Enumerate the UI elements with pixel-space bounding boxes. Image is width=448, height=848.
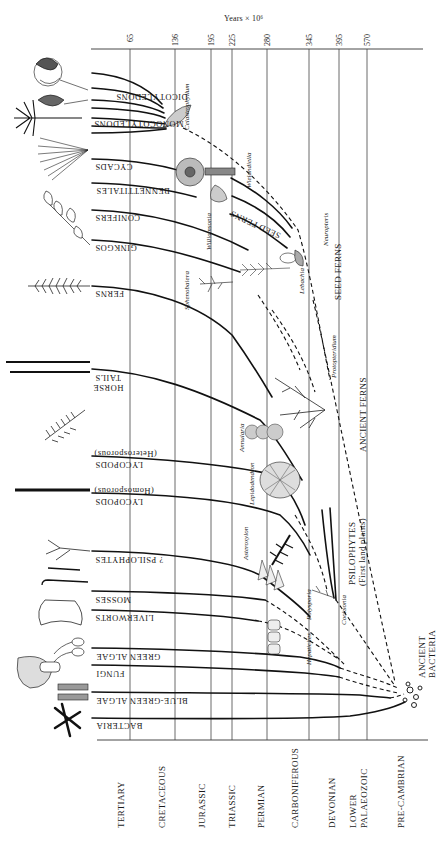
- genus-sphenobaiera: Sphenobaiera: [183, 271, 191, 310]
- label-psilophytes: PSILOPHYTES: [347, 522, 357, 585]
- horsetail-icon: [6, 362, 90, 372]
- label-horse-tails-line2: TAILS: [95, 373, 121, 382]
- label-ginkgos: GINKGOS: [95, 243, 137, 252]
- tick-280: 280: [263, 34, 272, 46]
- genus-asteroxylon: Asteroxylon: [242, 527, 250, 560]
- label-bennettitales: BENNETTITALES: [96, 186, 170, 195]
- genus-annularia: Annularia: [238, 424, 246, 452]
- genus-lepidodendron: Lepidodendron: [248, 462, 256, 505]
- label-horse-tails-line1: HORSE: [93, 383, 123, 392]
- label-lycopods-hetero-note: (Heterosporous): [94, 449, 157, 458]
- tick-395: 395: [335, 34, 344, 46]
- label-liverworts: LIVERWORTS: [95, 613, 154, 622]
- bennettitales-flower-icon: [176, 158, 235, 186]
- dashed-connectors: [183, 128, 404, 698]
- genus-hepaticites: Hepaticites: [305, 633, 313, 665]
- plant-evolution-diagram: Years × 10⁶ 65 136 195 225 280 345 395 5…: [0, 0, 448, 848]
- label-ancient-bacteria-line1: ANCIENT: [417, 636, 427, 678]
- moss-icon: [42, 568, 88, 585]
- bacteria-icon: [55, 704, 80, 736]
- label-ancient-ferns: ANCIENT FERNS: [358, 377, 368, 452]
- period-carboniferous: CARBONIFEROUS: [290, 748, 300, 828]
- period-devonian: DEVONIAN: [327, 777, 337, 828]
- williamsonia-icon: [211, 185, 228, 202]
- label-bacteria: BACTERIA: [96, 721, 143, 730]
- liverwort-icon: [39, 600, 82, 625]
- label-blue-green-algae: BLUE-GREEN ALGAE: [96, 696, 188, 705]
- genus-wielandiella: Wielandiella: [245, 153, 253, 188]
- protopteridium-icon: [275, 378, 325, 428]
- genus-celastrophyllum: Celastrophyllum: [183, 84, 191, 130]
- lepidodendron-icon: [260, 462, 300, 498]
- label-lycopods-homo-note: (Homosporous): [94, 486, 154, 495]
- genus-protopteridium: Protopteridium: [330, 335, 338, 378]
- genus-williamsonia: Williamsonia: [205, 213, 213, 250]
- period-pre-cambrian: PRE-CAMBRIAN: [396, 755, 406, 828]
- fungi-mushroom-icon: [17, 657, 60, 689]
- period-tertiary: TERTIARY: [116, 781, 126, 828]
- period-triassic: TRIASSIC: [227, 785, 237, 828]
- cycad-fan-icon: [38, 138, 88, 180]
- label-cycads: CYCADS: [95, 162, 132, 171]
- fern-frond-icon: [28, 278, 90, 294]
- label-ancient-bacteria-line2: BACTERIA: [427, 630, 437, 678]
- period-permian: PERMIAN: [256, 785, 266, 828]
- annularia-icon: [245, 424, 283, 440]
- label-conifers: CONIFERS: [95, 213, 140, 222]
- label-seed-ferns: SEED FERNS: [333, 243, 343, 300]
- sphenobaiera-icon: [199, 276, 233, 292]
- ginkgo-leaf-icon: [44, 191, 90, 245]
- label-fungi: FUNGI: [96, 669, 124, 678]
- genus-neuropteris: Neuropteris: [322, 213, 330, 246]
- label-psilophytes-questionable: ? PSILOPHYTES: [95, 555, 163, 564]
- label-mosses: MOSSES: [95, 595, 131, 604]
- tick-345: 345: [305, 34, 314, 46]
- dicot-flower-icon: [34, 58, 88, 106]
- tick-136: 136: [171, 34, 180, 46]
- genus-lebachia: Lebachia: [298, 268, 306, 294]
- period-cretaceous: CRETACEOUS: [157, 766, 167, 828]
- psilophyte-icon: [46, 540, 90, 560]
- label-ferns: FERNS: [95, 289, 124, 298]
- axis-title: Years × 10⁶: [224, 14, 263, 23]
- lycopod-hetero-icon: [45, 410, 85, 442]
- period-jurassic: JURASSIC: [197, 783, 207, 828]
- label-lycopods-hetero: LYCOPODS: [95, 460, 143, 469]
- polysporia-icon: [258, 560, 284, 590]
- label-green-algae: GREEN ALGAE: [96, 652, 160, 661]
- tick-195: 195: [207, 34, 216, 46]
- label-dicotyledons: DICOTYLEDONS: [116, 92, 188, 101]
- period-lower-palaeozoic-line2: PALAEOZOIC: [359, 768, 369, 828]
- label-monocotyledons: MONOCOTYLEDONS: [94, 119, 184, 128]
- genus-polysporia: Polysporia: [305, 589, 313, 620]
- green-algae-icon: [54, 638, 84, 662]
- blue-green-algae-icon: [58, 684, 88, 700]
- diagram-lines: [0, 0, 448, 848]
- tick-225: 225: [228, 34, 237, 46]
- label-lycopods-homo: LYCOPODS: [95, 497, 143, 506]
- tick-65: 65: [126, 34, 135, 42]
- label-psilophytes-note: (First land plants): [357, 518, 367, 586]
- period-lower-palaeozoic-line1: LOWER: [348, 794, 358, 828]
- genus-cooksonia: Cooksonia: [340, 595, 348, 625]
- asteroxylon-icon: [270, 535, 293, 565]
- hepaticites-icon: [268, 620, 280, 654]
- ancient-bacteria-icon: [403, 682, 422, 708]
- lebachia-icon: [240, 263, 290, 276]
- neuropteris-icon: [280, 250, 303, 266]
- tick-570: 570: [363, 34, 372, 46]
